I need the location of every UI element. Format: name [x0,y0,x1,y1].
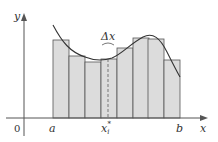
riemann-sum-diagram: y x 0 a b xi* Δx [0,0,218,142]
origin-label: 0 [14,123,20,134]
delta-x-brace [102,43,114,45]
rectangle-7 [148,39,164,118]
rectangle-3 [85,62,101,118]
rectangle-1 [53,40,69,118]
a-label: a [49,122,56,135]
x-axis-arrow-icon [200,115,208,121]
x-axis-label: x [200,122,207,135]
rectangle-4 [101,59,117,118]
rectangle-2 [69,56,85,118]
rectangle-6 [133,38,149,118]
y-axis-arrow-icon [21,13,27,21]
xi-star-label: xi* [101,120,111,136]
b-label: b [176,122,183,135]
rectangle-8 [164,60,180,118]
rectangle-5 [117,48,133,118]
delta-x-label: Δx [100,30,116,43]
y-axis-label: y [13,10,21,23]
